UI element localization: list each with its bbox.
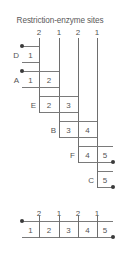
- map-cut-line-2: [59, 215, 60, 238]
- map-strand-bottom: [22, 237, 113, 238]
- map-cut-line-4: [97, 215, 98, 238]
- map-end-dot-right: [111, 235, 115, 239]
- map-segment-4: 4: [83, 226, 92, 235]
- fragment-left-cap: [39, 96, 40, 113]
- fragment-segment-4: 4: [83, 151, 92, 160]
- map-cut-line-3: [78, 215, 79, 238]
- map-strand-top: [22, 221, 113, 222]
- fragment-right-cap: [78, 96, 79, 113]
- cut-site-label-2: 1: [55, 28, 64, 37]
- fragment-right-cap: [59, 71, 60, 88]
- fragment-segment-1: 1: [26, 76, 35, 85]
- fragment-end-dot-right: [111, 185, 115, 189]
- fragment-segment-2: 2: [45, 101, 54, 110]
- strand-top: [78, 146, 113, 147]
- fragment-row-label-E: E: [25, 101, 36, 110]
- fragment-row-label-D: D: [8, 51, 19, 60]
- fragment-end-dot-right: [111, 160, 115, 164]
- cut-line-4: [97, 38, 98, 187]
- fragment-left-cap: [78, 146, 79, 163]
- map-end-dot-left: [20, 219, 24, 223]
- strand-bottom: [22, 87, 59, 88]
- strand-top: [39, 96, 78, 97]
- fragment-right-cap: [97, 121, 98, 138]
- fragment-segment-5: 5: [101, 176, 110, 185]
- fragment-row-label-B: B: [45, 126, 56, 135]
- fragment-left-cap: [59, 121, 60, 138]
- map-cut-line-1: [39, 215, 40, 238]
- map-segment-2: 2: [45, 226, 54, 235]
- fragment-right-cap: [39, 46, 40, 63]
- fragment-segment-1: 1: [26, 51, 35, 60]
- strand-top: [59, 121, 97, 122]
- cut-site-label-4: 1: [93, 28, 102, 37]
- fragment-segment-3: 3: [64, 126, 73, 135]
- fragment-row-label-C: C: [83, 176, 94, 185]
- strand-bottom: [22, 62, 39, 63]
- strand-bottom: [78, 162, 113, 163]
- map-segment-3: 3: [64, 226, 73, 235]
- fragment-left-cap: [97, 171, 98, 188]
- cut-site-label-3: 2: [74, 28, 83, 37]
- fragment-row-label-A: A: [8, 76, 19, 85]
- fragment-segment-5: 5: [101, 151, 110, 160]
- strand-bottom: [59, 137, 97, 138]
- fragment-segment-3: 3: [64, 101, 73, 110]
- restriction-enzyme-diagram: Restriction-enzyme sites 2121 D1A12E23B3…: [0, 0, 120, 256]
- page-title: Restriction-enzyme sites: [0, 16, 120, 25]
- fragment-segment-2: 2: [45, 76, 54, 85]
- strand-top: [97, 171, 113, 172]
- fragment-row-label-F: F: [64, 151, 75, 160]
- fragment-segment-4: 4: [83, 126, 92, 135]
- strand-top: [22, 46, 39, 47]
- map-segment-1: 1: [26, 226, 35, 235]
- fragment-end-dot-left: [20, 69, 24, 73]
- fragment-end-dot-left: [20, 44, 24, 48]
- strand-bottom: [39, 112, 78, 113]
- strand-top: [22, 71, 59, 72]
- cut-site-label-1: 2: [35, 28, 44, 37]
- map-segment-5: 5: [101, 226, 110, 235]
